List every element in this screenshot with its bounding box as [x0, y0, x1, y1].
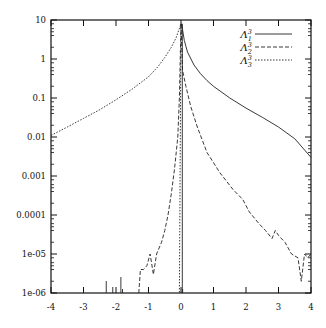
- y-axis: 1e-061e-050.00010.0010.010.1110: [16, 15, 311, 298]
- y-tick-label: 0.1: [32, 93, 46, 103]
- series-line-3: [51, 24, 181, 293]
- y-tick-label: 1e-06: [22, 288, 46, 298]
- x-tick-label: 2: [243, 302, 248, 312]
- x-tick-label: 1: [211, 302, 216, 312]
- legend: Λ31Λ32Λ33: [239, 28, 292, 69]
- series-line-2: [139, 24, 311, 293]
- x-tick-label: 0: [178, 302, 183, 312]
- y-tick-label: 10: [35, 15, 46, 25]
- y-tick-label: 0.01: [27, 132, 46, 142]
- y-tick-label: 0.0001: [16, 210, 46, 220]
- x-tick-label: -2: [112, 302, 120, 312]
- y-tick-label: 1: [41, 54, 46, 64]
- x-tick-label: -1: [144, 302, 152, 312]
- x-tick-label: 4: [308, 302, 313, 312]
- legend-label-3: Λ33: [239, 54, 252, 69]
- log-line-chart: 1e-061e-050.00010.0010.010.1110 -4-3-2-1…: [0, 0, 326, 328]
- x-tick-label: -4: [47, 302, 55, 312]
- y-tick-label: 1e-05: [22, 249, 46, 259]
- x-tick-label: 3: [276, 302, 281, 312]
- y-tick-label: 0.001: [22, 171, 46, 181]
- x-tick-label: -3: [79, 302, 87, 312]
- series-layer: [51, 24, 311, 293]
